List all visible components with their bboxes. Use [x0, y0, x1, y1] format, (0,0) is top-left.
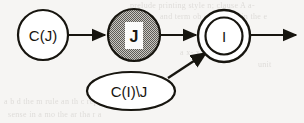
diagram-svg: C(J) J I C(I)\J: [0, 0, 304, 123]
node-j[interactable]: J: [108, 9, 160, 61]
figure-canvas: prelude printing style n; clause A a- an…: [0, 0, 304, 123]
node-j-label: J: [130, 28, 139, 45]
node-c-of-j[interactable]: C(J): [18, 10, 68, 60]
node-i[interactable]: I: [198, 10, 250, 62]
node-i-label: I: [222, 28, 226, 45]
node-c-of-j-label: C(J): [29, 27, 57, 44]
node-c-of-i-minus-j[interactable]: C(I)\J: [87, 72, 175, 110]
node-c-of-i-minus-j-label: C(I)\J: [111, 83, 148, 100]
edge-cij-to-i: [168, 53, 206, 78]
